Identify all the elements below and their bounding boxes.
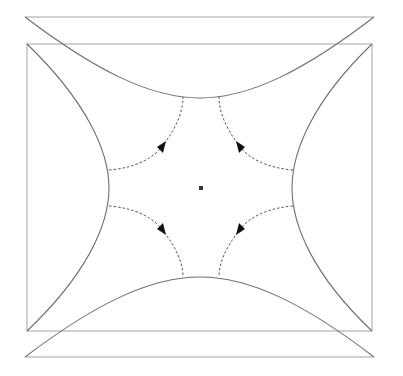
diagram-canvas xyxy=(0,0,403,376)
flow-line-upper-left xyxy=(109,97,183,170)
left-curve xyxy=(27,44,109,331)
top-curve xyxy=(25,17,374,98)
flow-line-upper-right xyxy=(219,97,293,170)
arrow-upper-right-icon xyxy=(236,141,245,153)
arrow-lower-left-icon xyxy=(157,223,166,235)
flow-line-lower-right xyxy=(219,206,293,277)
flow-line-lower-left xyxy=(109,206,183,277)
bottom-curve xyxy=(25,277,374,357)
right-curve xyxy=(292,44,372,331)
center-point xyxy=(199,186,203,190)
arrow-lower-right-icon xyxy=(236,223,245,235)
hyperbolic-flow-diagram xyxy=(0,0,403,376)
arrow-upper-left-icon xyxy=(157,141,166,153)
